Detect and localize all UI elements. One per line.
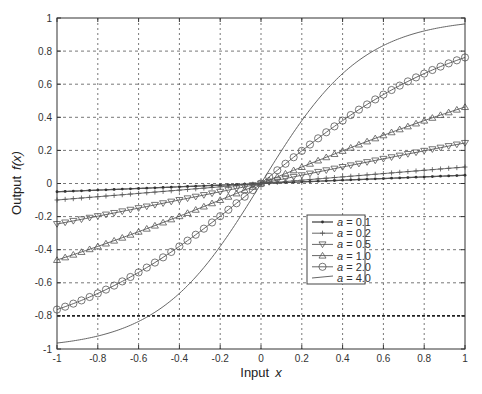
legend-label: a = 4.0 xyxy=(337,272,371,284)
x-tick-label: -0.4 xyxy=(171,353,189,364)
x-tick-label: 0.6 xyxy=(376,353,390,364)
line-chart: -1-0.8-0.6-0.4-0.200.20.40.60.81 -1-0.8-… xyxy=(0,0,482,394)
legend-label: a = 0.1 xyxy=(337,216,371,228)
x-tick-label: 0.2 xyxy=(295,353,309,364)
x-tick-label: 0 xyxy=(258,353,264,364)
x-tick-label: 1 xyxy=(462,353,468,364)
legend-label: a = 0.2 xyxy=(337,227,371,239)
x-tick-label: -0.6 xyxy=(130,353,148,364)
legend: a = 0.1a = 0.2a = 0.5a = 1.0a = 2.0a = 4… xyxy=(307,215,371,284)
y-tick-label: -0.6 xyxy=(35,277,53,288)
y-tick-label: -0.2 xyxy=(35,211,53,222)
y-tick-label: 0 xyxy=(46,178,52,189)
y-tick-label: -0.4 xyxy=(35,244,53,255)
legend-label: a = 1.0 xyxy=(337,250,371,262)
x-axis-ticks: -1-0.8-0.6-0.4-0.200.20.40.60.81 xyxy=(53,18,469,364)
y-tick-label: 0.4 xyxy=(38,112,52,123)
y-tick-label: 0.2 xyxy=(38,145,52,156)
x-tick-label: -1 xyxy=(53,353,62,364)
y-axis-label: Outputf(x) xyxy=(9,151,24,215)
x-axis-label: Inputx xyxy=(240,365,282,380)
legend-label: a = 2.0 xyxy=(337,261,371,273)
x-tick-label: 0.4 xyxy=(336,353,350,364)
x-tick-label: -0.2 xyxy=(212,353,230,364)
y-tick-label: 1 xyxy=(46,13,52,24)
y-tick-label: -1 xyxy=(43,344,52,355)
x-tick-label: 0.8 xyxy=(417,353,431,364)
legend-label: a = 0.5 xyxy=(337,238,371,250)
y-tick-label: -0.8 xyxy=(35,310,53,321)
y-tick-label: 0.6 xyxy=(38,79,52,90)
y-tick-label: 0.8 xyxy=(38,46,52,57)
x-tick-label: -0.8 xyxy=(89,353,107,364)
